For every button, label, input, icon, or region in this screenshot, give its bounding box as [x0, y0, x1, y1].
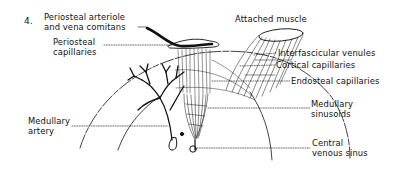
periosteal-arteriole [147, 28, 212, 46]
endosteal-surface-arc [118, 96, 160, 150]
endosteal-surface-arc-right [250, 92, 272, 160]
label-periosteal-capillaries: Periosteal capillaries [53, 38, 97, 57]
label-endosteal-capillaries: Endosteal capillaries [291, 77, 380, 87]
medullary-artery-dot [180, 132, 183, 135]
figure-number: 4. [24, 16, 33, 26]
label-cortical-capillaries: Cortical capillaries [276, 61, 355, 71]
cortical-capillaries [175, 49, 255, 100]
medullary-sinusoids [184, 94, 208, 140]
label-attached-muscle: Attached muscle [235, 15, 307, 25]
label-periosteal-arteriole: Periosteal arteriole and vena comitans [44, 13, 126, 32]
medullary-artery-end [169, 138, 177, 150]
medullary-artery-tree [128, 64, 184, 140]
label-central-venous-sinus: Central venous sinus [312, 139, 368, 158]
label-interfascicular-venules: Interfascicular venules [278, 49, 375, 59]
label-medullary-artery: Medullary artery [28, 117, 70, 136]
label-medullary-sinusoids: Medullary sinusoids [311, 100, 353, 119]
